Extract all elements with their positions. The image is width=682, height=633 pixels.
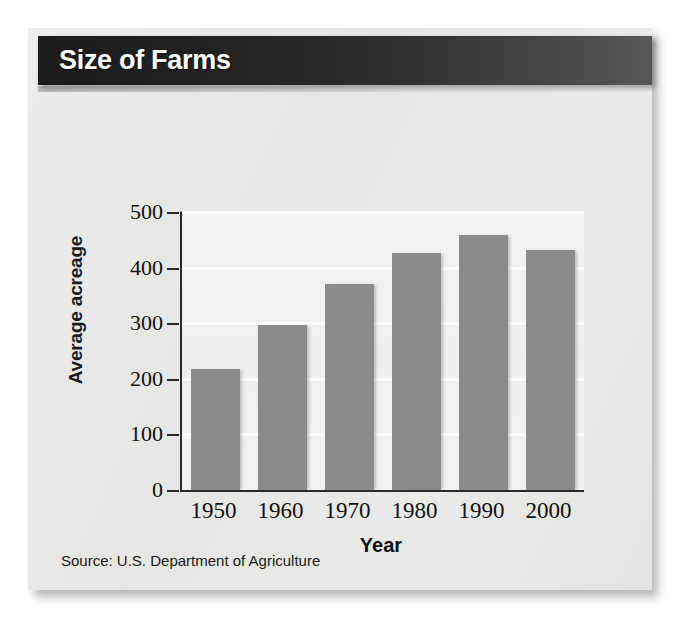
y-tick-mark	[167, 212, 179, 214]
y-tick-label: 300	[130, 310, 163, 336]
y-tick-label: 200	[130, 366, 163, 392]
page-title: Size of Farms	[59, 45, 231, 76]
y-tick-mark	[167, 434, 179, 436]
bar-2000	[526, 250, 576, 490]
bars-layer	[182, 212, 584, 490]
bar-1990	[459, 235, 509, 490]
y-tick-label: 400	[130, 255, 163, 281]
source-note: Source: U.S. Department of Agriculture	[61, 552, 320, 569]
bar-1950	[191, 369, 241, 490]
y-tick-mark	[167, 379, 179, 381]
x-tick-label-1960: 1960	[258, 498, 304, 524]
x-tick-label-2000: 2000	[526, 498, 572, 524]
bar-chart: Average acreage 0100200300400500 1950196…	[28, 94, 652, 544]
y-tick-label: 500	[130, 199, 163, 225]
figure-card: Size of Farms Average acreage 0100200300…	[28, 28, 652, 590]
bar-1960	[258, 325, 308, 490]
y-tick-label: 0	[152, 477, 163, 503]
header-divider	[38, 86, 652, 92]
x-tick-label-1980: 1980	[392, 498, 438, 524]
y-axis-title: Average acreage	[65, 210, 87, 410]
figure-header-bar: Size of Farms	[38, 36, 652, 85]
y-tick-label: 100	[130, 421, 163, 447]
bar-1970	[325, 284, 375, 490]
x-tick-label-1950: 1950	[191, 498, 237, 524]
bar-1980	[392, 253, 442, 490]
plot-area	[180, 212, 584, 492]
y-tick-mark	[167, 268, 179, 270]
x-tick-label-1970: 1970	[325, 498, 371, 524]
y-tick-mark	[167, 323, 179, 325]
y-tick-mark	[167, 490, 179, 492]
x-tick-label-1990: 1990	[459, 498, 505, 524]
